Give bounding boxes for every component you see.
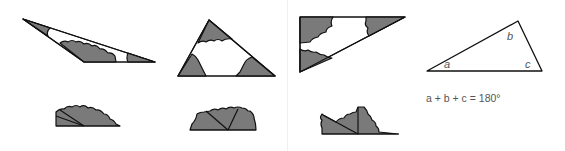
angle-label-b: b: [507, 30, 513, 42]
torn-triangle-2: [178, 20, 275, 76]
torn-triangle-3: [300, 17, 405, 72]
angle-label-c: c: [525, 58, 531, 70]
angle-sum-figure: [0, 0, 565, 151]
rearranged-angles-2: [190, 107, 256, 130]
rearranged-angles-1: [56, 106, 120, 127]
angle-label-a: a: [444, 58, 450, 70]
torn-triangle-1: [23, 19, 155, 62]
angle-sum-equation: a + b + c = 180°: [426, 92, 501, 104]
rearranged-angles-3: [321, 107, 400, 134]
